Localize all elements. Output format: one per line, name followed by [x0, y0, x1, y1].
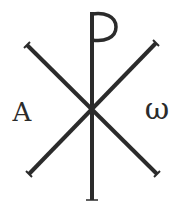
- rho-bowl: [92, 14, 116, 41]
- chi-rho-symbol: A ω: [0, 0, 180, 209]
- omega-letter: ω: [145, 91, 169, 126]
- alpha-letter: A: [12, 97, 33, 127]
